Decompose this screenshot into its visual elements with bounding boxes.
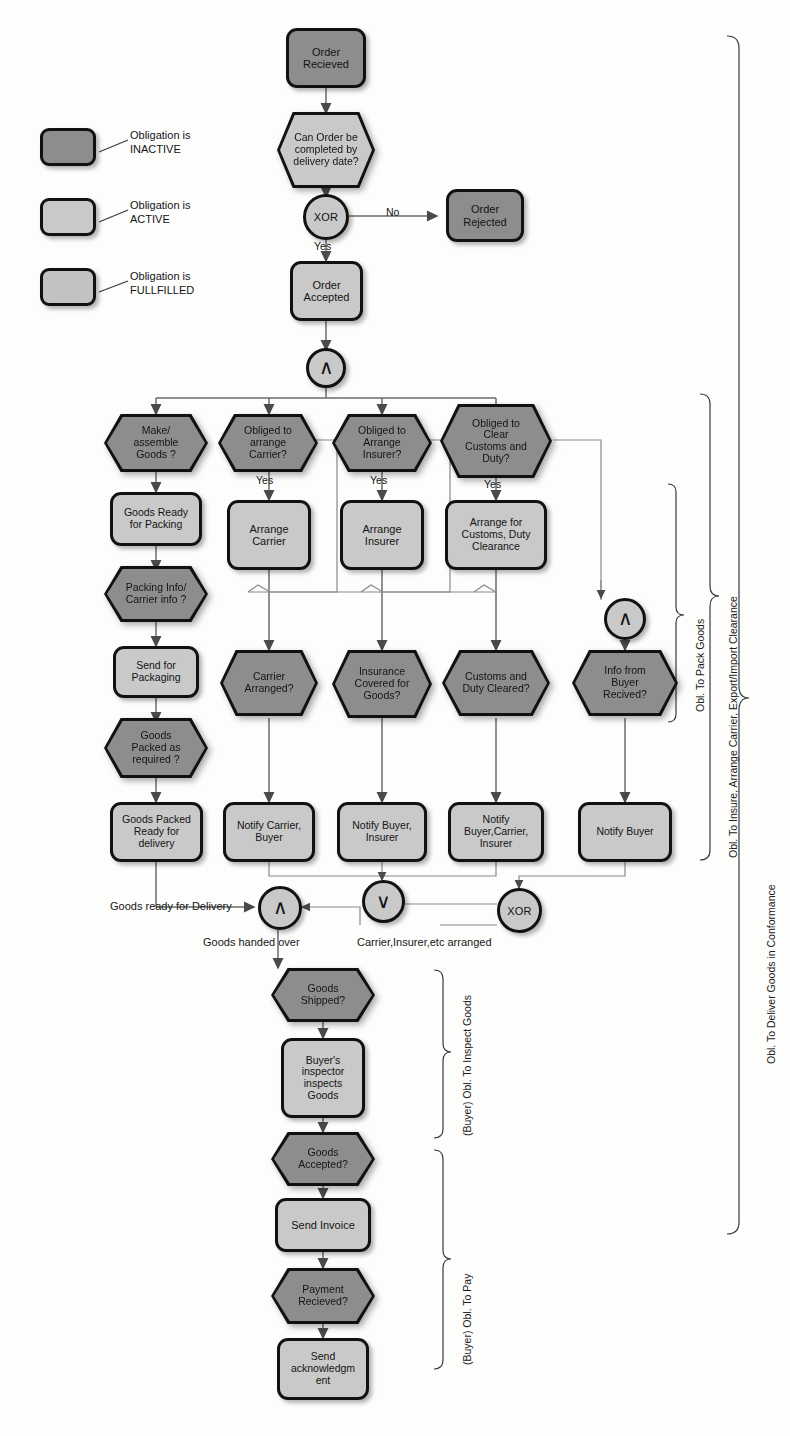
node-buyers-inspector[interactable]: Buyer'sinspectorinspectsGoods [281,1038,365,1118]
node-insurance-covered-label: InsuranceCovered forGoods? [352,666,413,701]
edge-label-no: No [386,206,399,218]
node-goods-ready-packing-label: Goods Readyfor Packing [121,507,191,531]
bracket-label-insure-carrier: Obl. To Insure, Arrange Carrier, Export/… [727,596,739,858]
legend-active-line2: ACTIVE [130,213,170,225]
bracket-label-inspect-goods: (Buyer) Obl. To Inspect Goods [461,995,473,1136]
legend-label-fulfilled: Obligation is FULLFILLED [130,270,194,298]
legend-inactive-line2: INACTIVE [130,143,181,155]
gate-xor-join[interactable]: XOR [497,888,542,933]
node-notify-buyer-insurer-label: Notify Buyer,Insurer [349,820,415,844]
node-customs-duty-cleared-label: Customs andDuty Cleared? [459,671,532,695]
node-send-acknowledgment[interactable]: Sendacknowledgment [277,1338,369,1400]
legend-swatch-active [40,198,96,236]
node-payment-recieved[interactable]: PaymentRecieved? [271,1268,375,1324]
edge-label-yes-top: Yes [314,240,331,252]
edge-label-yes-carrier: Yes [256,474,273,486]
legend-label-active: Obligation is ACTIVE [130,199,191,227]
node-info-from-buyer[interactable]: Info fromBuyerRecived? [572,650,678,716]
node-order-recieved-label: OrderRecieved [300,46,352,71]
node-arrange-insurer-label: ArrangeInsurer [359,523,404,548]
flow-label-carrier-insurer-arranged: Carrier,Insurer,etc arranged [357,936,492,948]
node-notify-buyer-carrier-insurer[interactable]: NotifyBuyer,Carrier,Insurer [448,802,544,862]
bracket-label-deliver-conform: Obl. To Deliver Goods in Conformance [765,884,777,1064]
node-send-for-packaging[interactable]: Send forPackaging [113,646,199,698]
node-goods-accepted[interactable]: GoodsAccepted? [271,1132,375,1186]
gate-or-join-label: ∨ [376,889,391,913]
node-buyers-inspector-label: Buyer'sinspectorinspectsGoods [299,1055,348,1102]
node-notify-buyer-label: Notify Buyer [593,826,656,838]
node-goods-packed-ready[interactable]: Goods PackedReady fordelivery [110,802,203,862]
node-send-invoice-label: Send Invoice [288,1219,358,1231]
node-payment-recieved-label: PaymentRecieved? [295,1284,351,1308]
bracket-label-pack-goods: Obl. To Pack Goods [694,619,706,712]
node-order-accepted[interactable]: OrderAccepted [290,261,363,321]
node-arrange-carrier[interactable]: ArrangeCarrier [227,500,311,570]
gate-and-right-label: ∧ [618,606,633,630]
legend-active-line1: Obligation is [130,199,191,211]
gate-xor-top-label: XOR [314,211,339,223]
node-can-order-completed[interactable]: Can Order becompleted bydelivery date? [277,112,375,188]
flow-label-goods-ready-delivery: Goods ready for Delivery [110,900,232,912]
flow-label-goods-handed-over: Goods handed over [203,936,300,948]
node-send-acknowledgment-label: Sendacknowledgment [288,1351,358,1386]
node-send-invoice[interactable]: Send Invoice [275,1198,371,1252]
node-packing-carrier-info-label: Packing Info/Carrier info ? [123,582,190,606]
legend-fulfilled-line1: Obligation is [130,270,191,282]
node-carrier-arranged-label: CarrierArranged? [241,671,296,695]
node-make-assemble-goods-label: Make/assembleGoods ? [131,425,182,460]
node-arrange-customs[interactable]: Arrange forCustoms, DutyClearance [445,500,547,570]
node-order-rejected[interactable]: OrderRejected [446,189,524,242]
legend-swatch-fulfilled [40,268,96,306]
node-notify-buyer-insurer[interactable]: Notify Buyer,Insurer [337,802,427,862]
node-notify-buyer[interactable]: Notify Buyer [578,802,672,862]
gate-and-split-label: ∧ [319,355,334,379]
node-arrange-customs-label: Arrange forCustoms, DutyClearance [459,517,534,552]
node-obliged-arrange-insurer-label: Obliged toArrangeInsurer? [355,425,409,460]
edge-label-yes-insurer: Yes [370,474,387,486]
node-obliged-clear-customs-label: Obliged toClearCustoms andDuty? [462,418,530,465]
bracket-label-pay: (Buyer) Obl. To Pay [461,1274,473,1365]
node-can-order-completed-label: Can Order becompleted bydelivery date? [290,132,361,167]
node-notify-carrier-buyer[interactable]: Notify Carrier,Buyer [223,802,315,862]
node-carrier-arranged[interactable]: CarrierArranged? [220,650,318,716]
node-goods-shipped[interactable]: GoodsShipped? [271,968,375,1022]
legend-inactive-line1: Obligation is [130,129,191,141]
node-goods-packed-required-label: GoodsPacked asrequired ? [128,730,183,765]
node-goods-shipped-label: GoodsShipped? [298,983,348,1007]
gate-xor-top[interactable]: XOR [303,194,349,240]
gate-xor-join-label: XOR [507,905,532,917]
node-packing-carrier-info[interactable]: Packing Info/Carrier info ? [104,566,208,622]
legend-label-inactive: Obligation is INACTIVE [130,129,191,157]
node-order-recieved[interactable]: OrderRecieved [286,28,366,88]
node-obliged-arrange-carrier-label: Obliged toarrangeCarrier? [241,425,295,460]
node-make-assemble-goods[interactable]: Make/assembleGoods ? [104,414,208,472]
node-customs-duty-cleared[interactable]: Customs andDuty Cleared? [442,650,550,716]
gate-and-join-label: ∧ [273,895,288,919]
node-order-accepted-label: OrderAccepted [301,279,353,304]
node-goods-packed-required[interactable]: GoodsPacked asrequired ? [104,718,208,778]
node-goods-ready-packing[interactable]: Goods Readyfor Packing [110,492,202,546]
node-goods-packed-ready-label: Goods PackedReady fordelivery [119,814,194,849]
node-obliged-arrange-insurer[interactable]: Obliged toArrangeInsurer? [332,414,432,472]
legend-swatch-inactive [40,128,96,166]
node-order-rejected-label: OrderRejected [460,203,509,228]
edge-label-yes-customs: Yes [484,478,501,490]
node-arrange-carrier-label: ArrangeCarrier [246,523,291,548]
node-insurance-covered[interactable]: InsuranceCovered forGoods? [332,650,432,718]
node-obliged-arrange-carrier[interactable]: Obliged toarrangeCarrier? [218,414,318,472]
node-notify-carrier-buyer-label: Notify Carrier,Buyer [234,820,304,844]
gate-and-split[interactable]: ∧ [306,348,346,388]
node-goods-accepted-label: GoodsAccepted? [295,1147,351,1171]
node-arrange-insurer[interactable]: ArrangeInsurer [340,500,424,570]
node-notify-buyer-carrier-insurer-label: NotifyBuyer,Carrier,Insurer [461,814,531,849]
gate-and-join[interactable]: ∧ [258,886,302,930]
flowchart-canvas: Obligation is INACTIVE Obligation is ACT… [0,0,790,1436]
node-info-from-buyer-label: Info fromBuyerRecived? [600,665,650,700]
node-obliged-clear-customs[interactable]: Obliged toClearCustoms andDuty? [440,404,552,478]
gate-and-right[interactable]: ∧ [604,598,646,640]
node-send-for-packaging-label: Send forPackaging [128,660,183,684]
legend-fulfilled-line2: FULLFILLED [130,284,194,296]
gate-or-join[interactable]: ∨ [362,880,405,923]
